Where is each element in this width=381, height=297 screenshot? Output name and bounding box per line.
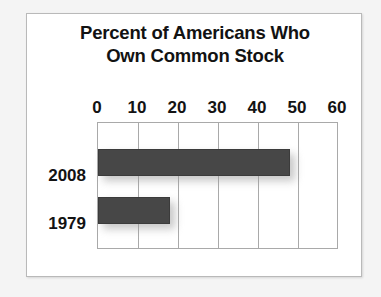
x-tick-label-60: 60 xyxy=(317,99,357,116)
x-tick-label-20: 20 xyxy=(157,99,197,116)
category-label-1979: 1979 xyxy=(24,215,86,232)
chart-figure-frame: Percent of Americans Who Own Common Stoc… xyxy=(26,13,362,277)
x-tick-label-0: 0 xyxy=(77,99,117,116)
bar-1979 xyxy=(98,197,170,224)
gridline-20 xyxy=(178,123,179,248)
chart-title-line-1: Percent of Americans Who xyxy=(27,22,363,45)
gridline-50 xyxy=(298,123,299,248)
gridline-10 xyxy=(138,123,139,248)
category-label-2008: 2008 xyxy=(24,167,86,184)
gridline-30 xyxy=(218,123,219,248)
chart-title: Percent of Americans Who Own Common Stoc… xyxy=(27,22,363,67)
x-tick-label-40: 40 xyxy=(237,99,277,116)
bar-2008 xyxy=(98,149,290,176)
x-tick-label-10: 10 xyxy=(117,99,157,116)
x-tick-label-30: 30 xyxy=(197,99,237,116)
gridline-40 xyxy=(258,123,259,248)
plot-area xyxy=(97,122,338,249)
chart-title-line-2: Own Common Stock xyxy=(27,45,363,68)
x-tick-label-50: 50 xyxy=(277,99,317,116)
